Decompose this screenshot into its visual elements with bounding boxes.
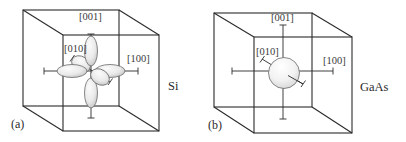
cube-back-face xyxy=(23,10,119,106)
axis-label-001: [001] xyxy=(271,12,294,23)
k-space-figure: [001] [010] [100] Si (a) xyxy=(0,0,406,142)
material-label-si: Si xyxy=(168,79,179,93)
panel-si: [001] [010] [100] Si (a) xyxy=(11,10,179,131)
cube-edge-bottom-right xyxy=(119,106,159,131)
axis-label-010: [010] xyxy=(64,43,87,54)
cube-edge-top-left xyxy=(214,13,254,37)
axis-label-001: [001] xyxy=(79,11,102,22)
cube-edge-bottom-right xyxy=(312,107,352,133)
panel-gaas: [001] [010] [100] GaAs (b) xyxy=(208,12,389,133)
panel-label-a: (a) xyxy=(11,117,24,131)
valley-minus-100 xyxy=(57,65,87,78)
axis-label-100: [100] xyxy=(127,53,150,64)
axis-label-100: [100] xyxy=(323,55,346,66)
cube-edge-top-right xyxy=(312,13,352,37)
cube-edge-top-right xyxy=(119,10,159,35)
cube-edge-top-left xyxy=(23,10,63,35)
panel-label-b: (b) xyxy=(208,118,222,132)
gaas-gamma-valley-sphere xyxy=(269,58,300,89)
material-label-gaas: GaAs xyxy=(360,80,389,94)
cube-edge-bottom-left xyxy=(23,106,63,131)
axis-label-010: [010] xyxy=(256,46,279,57)
